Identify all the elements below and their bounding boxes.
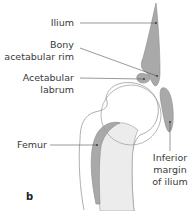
label-ilium: Ilium (30, 17, 74, 29)
label-labrum-line2: labrum (0, 84, 74, 96)
acetabular-labrum (137, 73, 150, 83)
label-bony-rim-line2: acetabular rim (0, 51, 74, 63)
label-inferior-line2: margin (145, 164, 194, 176)
label-bony-rim-line1: Bony (0, 39, 74, 51)
labrum-leader (80, 78, 144, 79)
panel-label: b (26, 191, 33, 202)
label-femur: Femur (0, 139, 47, 151)
label-labrum-line1: Acetabular (0, 72, 74, 84)
label-inferior-line3: of ilium (145, 176, 194, 188)
label-inferior-line1: Inferior (145, 152, 194, 164)
inferior-ilium-bone (160, 88, 173, 132)
